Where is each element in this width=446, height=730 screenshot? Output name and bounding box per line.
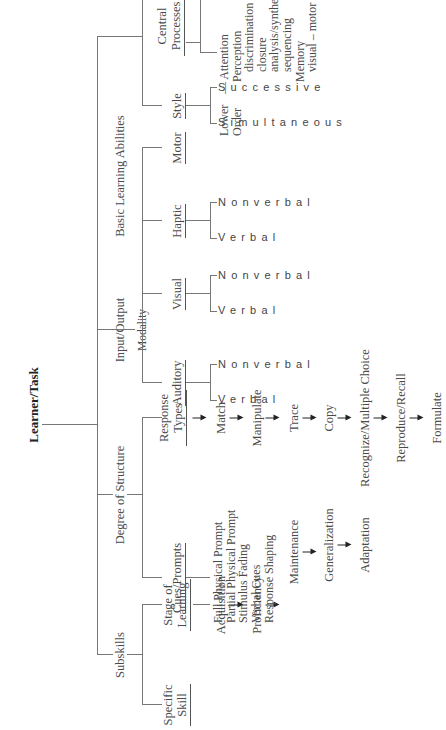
arrow-down-icon xyxy=(303,549,317,556)
cue-item: Response Shaping xyxy=(263,510,276,623)
connector xyxy=(210,364,217,365)
auditory-nonverbal: Nonverbal xyxy=(218,358,315,370)
arrow-down-icon xyxy=(338,542,352,549)
connector xyxy=(210,88,211,124)
connector xyxy=(210,311,217,312)
response-trace: Trace xyxy=(287,388,301,448)
style-simultaneous: Simultaneous xyxy=(218,116,347,128)
branch-input-output: Input/Output xyxy=(113,290,127,370)
specific-skill-label: Specific Skill xyxy=(162,680,191,730)
connector xyxy=(193,604,210,605)
modality-haptic: Haptic xyxy=(170,191,184,251)
style-label: Style xyxy=(170,81,184,131)
connector xyxy=(142,382,162,383)
haptic-nonverbal: Nonverbal xyxy=(218,196,315,208)
central-processes-label: Central Processes xyxy=(156,0,185,61)
visual-verbal: Verbal xyxy=(218,304,280,316)
response-formulate: Formulate xyxy=(430,378,444,458)
connector xyxy=(142,293,162,294)
connector xyxy=(186,220,210,221)
root-stem xyxy=(42,424,97,425)
connector xyxy=(210,238,217,239)
connector xyxy=(210,400,217,401)
basic-bar xyxy=(142,0,143,106)
haptic-verbal: Verbal xyxy=(218,231,280,243)
connector xyxy=(142,147,162,148)
connector xyxy=(200,52,217,53)
arrow-down-icon xyxy=(266,415,280,422)
response-reproduce: Reproduce/Recall xyxy=(394,368,408,468)
connector xyxy=(186,42,200,43)
connector xyxy=(142,577,162,578)
connector xyxy=(210,202,217,203)
connector xyxy=(142,220,162,221)
cue-item: Verbal Cues xyxy=(250,510,263,623)
connector xyxy=(186,577,210,578)
connector xyxy=(186,105,210,106)
arrow-down-icon xyxy=(303,415,317,422)
response-manipulate: Manipulate xyxy=(250,378,264,458)
stage-maintenance: Maintenance xyxy=(287,512,301,592)
branch-subskills: Subskills xyxy=(113,625,127,685)
arrow-down-icon xyxy=(193,415,207,422)
branch-basic-learning-abilities: Basic Learning Abilities xyxy=(113,101,127,251)
branch-degree-of-structure: Degree of Structure xyxy=(113,435,127,555)
arrow-down-icon xyxy=(230,415,244,422)
connector xyxy=(210,365,211,401)
arrow-down-icon xyxy=(338,415,352,422)
response-copy: Copy xyxy=(322,388,336,448)
connector xyxy=(186,382,210,383)
connector xyxy=(210,123,217,124)
connector xyxy=(210,276,211,312)
stage-generalization: Generalization xyxy=(322,500,336,590)
visual-nonverbal: Nonverbal xyxy=(218,269,315,281)
connector xyxy=(142,105,162,106)
subskills-bar xyxy=(142,605,143,705)
connector xyxy=(142,704,162,705)
connector xyxy=(186,293,210,294)
cues-prompts-list: Full Physical Prompt Partial Physical Pr… xyxy=(212,510,276,623)
stage-adaptation: Adaptation xyxy=(358,500,372,590)
arrow-down-icon xyxy=(374,415,388,422)
degree-bar xyxy=(142,418,143,578)
cue-item: Full Physical Prompt xyxy=(212,510,225,623)
arrow-down-icon xyxy=(410,415,424,422)
connector xyxy=(210,203,211,239)
modality-visual: Visual xyxy=(170,264,184,324)
root-label: Learner/Task xyxy=(27,365,41,445)
response-recognize: Recognize/Multiple Choice xyxy=(358,348,372,488)
connector xyxy=(210,87,217,88)
connector xyxy=(210,275,217,276)
style-successive: Successive xyxy=(218,81,326,93)
main-spine xyxy=(97,37,98,655)
modality-auditory: Auditory xyxy=(170,353,184,413)
stem-basic xyxy=(97,36,142,37)
modality-bar xyxy=(142,148,143,383)
connector xyxy=(142,604,162,605)
connector xyxy=(200,0,201,53)
cues-prompts-label: Cues/Prompts xyxy=(170,538,184,618)
auditory-verbal: Verbal xyxy=(218,393,280,405)
